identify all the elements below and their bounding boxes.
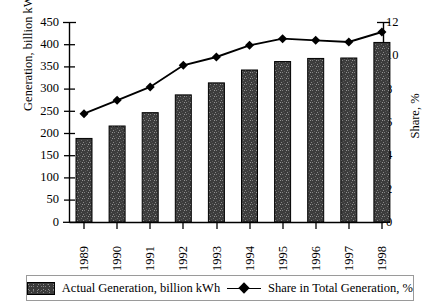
bar-1990: [109, 126, 125, 222]
share-line-path: [84, 32, 382, 114]
x-tick-1991: 1991: [144, 237, 157, 281]
marker-1989: [79, 109, 88, 118]
legend-line-swatch-icon: [227, 283, 261, 294]
x-tick-1993: 1993: [211, 237, 224, 281]
bar-series: [76, 42, 390, 222]
legend-line-label: Share in Total Generation, %: [268, 281, 413, 296]
marker-1997: [344, 37, 353, 46]
x-tick-1998: 1998: [376, 237, 389, 281]
x-tick-1989: 1989: [78, 237, 91, 281]
bar-1989: [76, 138, 92, 222]
bar-1992: [175, 95, 191, 222]
bar-1997: [341, 58, 357, 222]
bar-1998: [374, 42, 390, 222]
chart-figure: Generation, billion kWh Share, % 450 400…: [0, 0, 439, 306]
bar-1995: [275, 62, 291, 222]
bar-1994: [242, 70, 258, 222]
x-tick-1995: 1995: [277, 237, 290, 281]
x-tick-1994: 1994: [244, 237, 257, 281]
x-tick-1997: 1997: [343, 237, 356, 281]
bar-1996: [308, 58, 324, 222]
marker-1998: [377, 27, 386, 36]
legend-bar-label: Actual Generation, billion kWh: [62, 281, 220, 296]
x-tick-1996: 1996: [310, 237, 323, 281]
marker-1995: [278, 34, 287, 43]
bar-1993: [208, 83, 224, 222]
marker-1996: [311, 36, 320, 45]
x-tick-1992: 1992: [177, 237, 190, 281]
marker-1990: [113, 96, 122, 105]
marker-1993: [212, 52, 221, 61]
chart-legend: Actual Generation, billion kWh Share in …: [26, 275, 414, 301]
bar-1991: [142, 113, 158, 222]
marker-1994: [245, 41, 254, 50]
x-tick-1990: 1990: [111, 237, 124, 281]
legend-bar-swatch-icon: [27, 282, 55, 295]
